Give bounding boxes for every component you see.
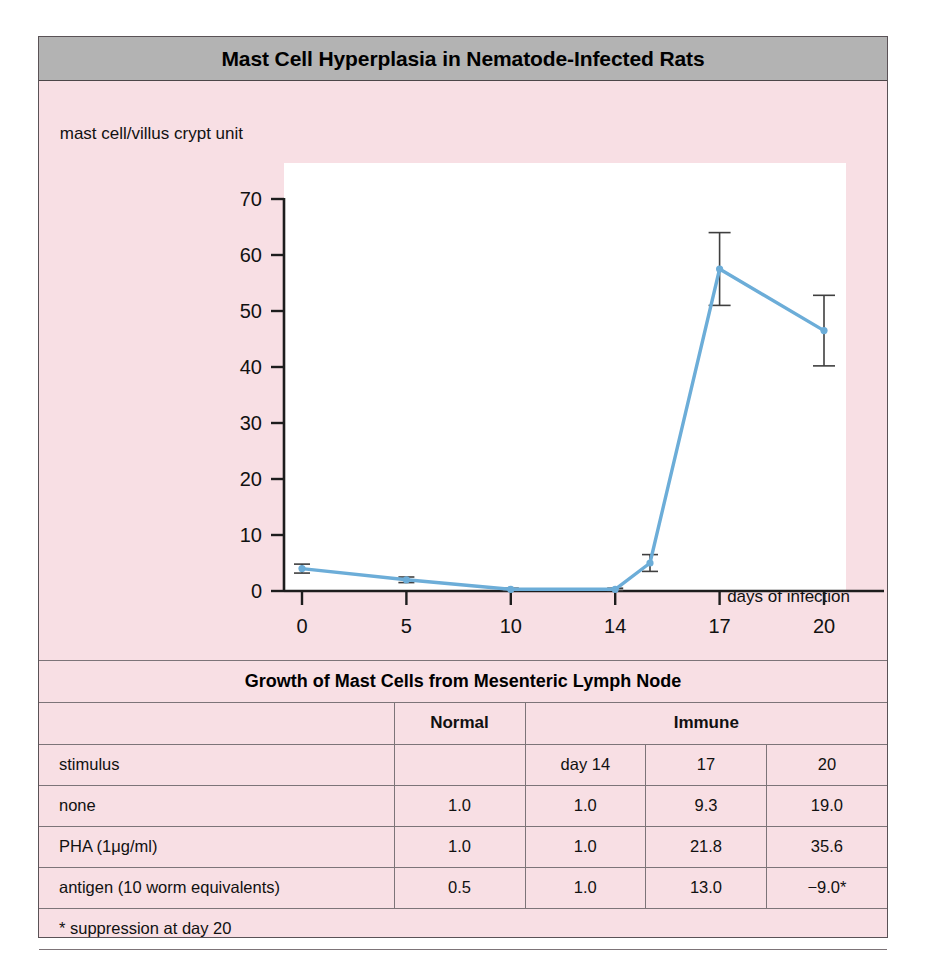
cell-pha-normal: 1.0 — [394, 826, 525, 867]
table-title-bar: Growth of Mast Cells from Mesenteric Lym… — [39, 661, 887, 703]
x-tick-label: 10 — [500, 615, 522, 637]
column-header-stimulus: stimulus — [39, 744, 394, 785]
cell-antigen-day17: 13.0 — [646, 867, 767, 908]
group-header-blank — [39, 703, 394, 744]
data-point — [298, 565, 305, 572]
x-tick-label: 17 — [708, 615, 730, 637]
column-header-day17: 17 — [646, 744, 767, 785]
row-label-antigen: antigen (10 worm equivalents) — [39, 867, 394, 908]
table-footnote-row: * suppression at day 20 — [39, 908, 887, 949]
y-tick-label: 20 — [240, 468, 262, 490]
table-title: Growth of Mast Cells from Mesenteric Lym… — [245, 671, 681, 692]
table-group-header-row: Normal Immune — [39, 703, 887, 744]
group-header-normal: Normal — [394, 703, 525, 744]
figure-panel: Mast Cell Hyperplasia in Nematode-Infect… — [38, 36, 888, 938]
data-point — [403, 576, 410, 583]
data-point — [820, 327, 827, 334]
cell-antigen-normal: 0.5 — [394, 867, 525, 908]
plot-area-background — [284, 163, 846, 591]
cell-none-normal: 1.0 — [394, 785, 525, 826]
cell-pha-day17: 21.8 — [646, 826, 767, 867]
y-tick-label: 50 — [240, 300, 262, 322]
cell-antigen-day20: −9.0* — [766, 867, 887, 908]
table-row: antigen (10 worm equivalents) 0.5 1.0 13… — [39, 867, 887, 908]
y-tick-label: 0 — [251, 580, 262, 602]
line-chart: 010203040506070 0510141720 — [39, 81, 887, 659]
results-table: Normal Immune stimulus day 14 17 20 none… — [39, 703, 887, 950]
chart-block: mast cell/villus crypt unit days of infe… — [39, 81, 887, 661]
data-point — [507, 586, 514, 593]
x-axis-ticks: 0510141720 — [296, 591, 835, 637]
y-tick-label: 60 — [240, 244, 262, 266]
cell-none-day17: 9.3 — [646, 785, 767, 826]
data-point — [646, 559, 653, 566]
x-tick-label: 0 — [296, 615, 307, 637]
row-label-none: none — [39, 785, 394, 826]
cell-pha-day20: 35.6 — [766, 826, 887, 867]
column-header-day20: 20 — [766, 744, 887, 785]
table-row: none 1.0 1.0 9.3 19.0 — [39, 785, 887, 826]
table-column-header-row: stimulus day 14 17 20 — [39, 744, 887, 785]
cell-none-day14: 1.0 — [525, 785, 646, 826]
cell-none-day20: 19.0 — [766, 785, 887, 826]
y-tick-label: 10 — [240, 524, 262, 546]
y-tick-label: 40 — [240, 356, 262, 378]
group-header-immune: Immune — [525, 703, 887, 744]
data-point — [716, 265, 723, 272]
cell-pha-day14: 1.0 — [525, 826, 646, 867]
y-tick-label: 70 — [240, 188, 262, 210]
table-row: PHA (1μg/ml) 1.0 1.0 21.8 35.6 — [39, 826, 887, 867]
cell-antigen-day14: 1.0 — [525, 867, 646, 908]
x-tick-label: 5 — [401, 615, 412, 637]
y-axis-ticks: 010203040506070 — [240, 188, 284, 602]
column-header-day14: day 14 — [525, 744, 646, 785]
x-tick-label: 20 — [813, 615, 835, 637]
figure-title: Mast Cell Hyperplasia in Nematode-Infect… — [221, 47, 704, 71]
y-tick-label: 30 — [240, 412, 262, 434]
column-header-normal-blank — [394, 744, 525, 785]
figure-title-bar: Mast Cell Hyperplasia in Nematode-Infect… — [39, 37, 887, 81]
row-label-pha: PHA (1μg/ml) — [39, 826, 394, 867]
table-footnote: * suppression at day 20 — [39, 908, 887, 949]
x-tick-label: 14 — [604, 615, 626, 637]
data-point — [612, 586, 619, 593]
